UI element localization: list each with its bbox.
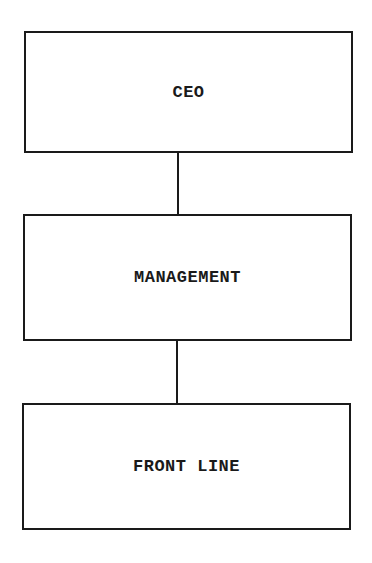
node-front-line: FRONT LINE xyxy=(22,403,351,530)
node-ceo-label: CEO xyxy=(172,83,204,102)
node-front-line-label: FRONT LINE xyxy=(133,457,240,476)
node-ceo: CEO xyxy=(24,31,353,153)
node-management: MANAGEMENT xyxy=(23,214,352,341)
connector-management-front-line xyxy=(176,341,178,404)
connector-ceo-management xyxy=(177,153,179,215)
node-management-label: MANAGEMENT xyxy=(134,268,241,287)
